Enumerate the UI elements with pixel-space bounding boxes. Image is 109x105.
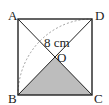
- label-a: A: [8, 8, 18, 23]
- square-diagram: A D B C O 8 cm: [0, 0, 109, 105]
- shaded-triangle-boc: [18, 57, 92, 95]
- label-c: C: [94, 91, 103, 105]
- measure-label: 8 cm: [44, 35, 70, 50]
- label-o: O: [57, 50, 66, 65]
- label-d: D: [95, 8, 104, 23]
- label-b: B: [8, 91, 17, 105]
